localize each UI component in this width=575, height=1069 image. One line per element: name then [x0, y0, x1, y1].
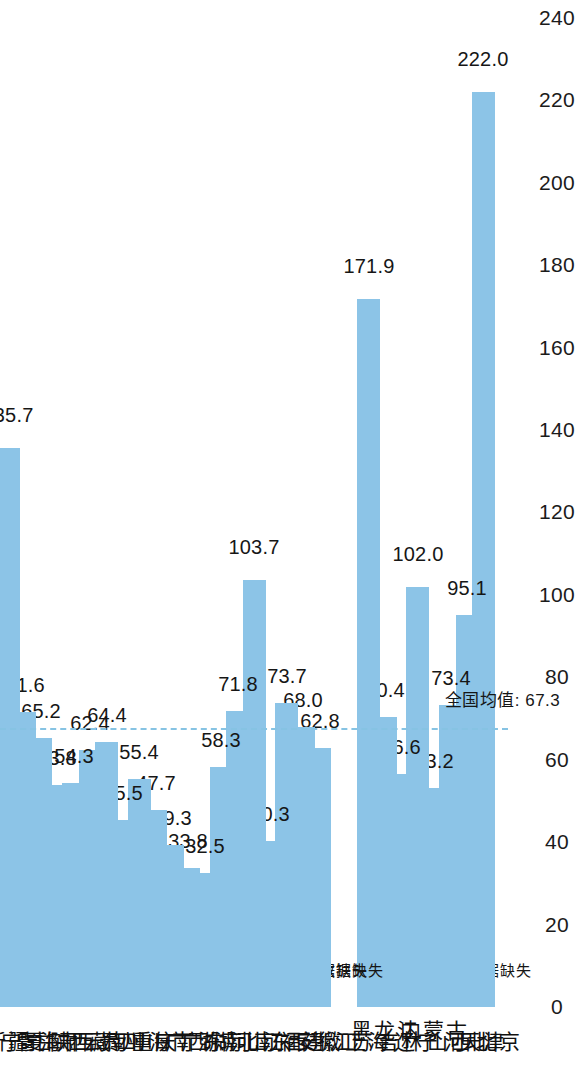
- axis-tick-label: 160: [545, 330, 569, 366]
- axis-tick-label: 20: [545, 913, 569, 937]
- axis-tick-label: 120: [545, 495, 569, 531]
- axis-tick-label: 100: [545, 577, 569, 613]
- axis-tick-label: 60: [545, 748, 569, 772]
- axis-tick-label: 140: [545, 412, 569, 448]
- axis-tick-label: 0: [545, 1001, 569, 1013]
- axis-tick-label: 80: [545, 665, 569, 689]
- axis-tick-label: 40: [545, 830, 569, 854]
- chart-canvas: 北京数据缺失天津222.0河北95.1山西73.4内蒙古53.2辽宁102.0吉…: [0, 0, 575, 1069]
- axis-tick-label: 180: [545, 247, 569, 283]
- axis-tick-label: 220: [545, 82, 569, 118]
- axis-tick-label: 200: [545, 165, 569, 201]
- axis-tick-label: 240: [545, 0, 569, 36]
- value-axis: 020406080100120140160180200220240: [0, 0, 575, 1069]
